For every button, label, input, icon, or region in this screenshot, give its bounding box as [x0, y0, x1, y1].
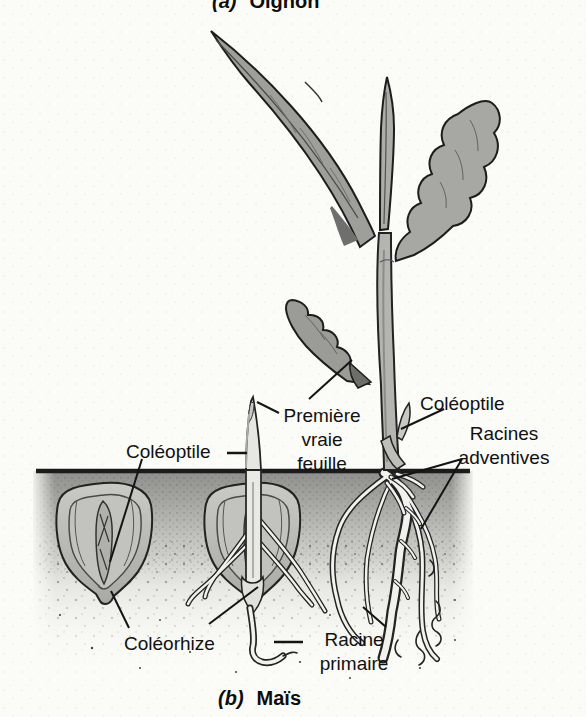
- label-coleorhiza: Coléorhize: [124, 632, 215, 656]
- panel-b-index: (b): [218, 687, 244, 709]
- maize-germination-figure: (a)Oignon Coléoptile Première vraie feui…: [0, 0, 586, 717]
- panel-b-title: Maïs: [257, 687, 301, 709]
- panel-a-index: (a): [212, 0, 236, 12]
- label-coleoptile-seed: Coléoptile: [126, 440, 211, 464]
- panel-a-title: Oignon: [249, 0, 319, 12]
- panel-a-caption: (a)Oignon: [212, 0, 319, 13]
- maize-figure-svg: [0, 0, 586, 717]
- label-primary-root: Racine primaire: [310, 628, 398, 676]
- label-coleoptile-plant: Coléoptile: [420, 392, 505, 416]
- label-adventitious-roots: Racines adventives: [447, 422, 561, 470]
- label-first-true-leaf: Première vraie feuille: [274, 404, 370, 476]
- panel-b-caption: (b)Maïs: [218, 687, 301, 710]
